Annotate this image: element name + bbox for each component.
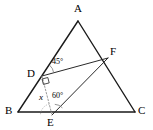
geometry-canvas [0,0,153,130]
segment-DE-dashed-line [42,76,52,115]
vertex-label-C: C [138,105,145,116]
vertex-label-B: B [5,105,12,116]
vertex-label-E: E [47,117,54,128]
angle-label-x: x [39,93,43,102]
angle-label-45: 45° [52,58,63,66]
vertex-label-D: D [27,68,35,79]
vertex-label-A: A [74,3,82,14]
geometry-figure: A B C D E F 45° 60° x [0,0,153,130]
side-AC-line [78,21,135,112]
vertex-label-F: F [110,46,116,57]
angle-label-60: 60° [52,92,63,100]
angle-arc-45-at-D [50,65,54,73]
